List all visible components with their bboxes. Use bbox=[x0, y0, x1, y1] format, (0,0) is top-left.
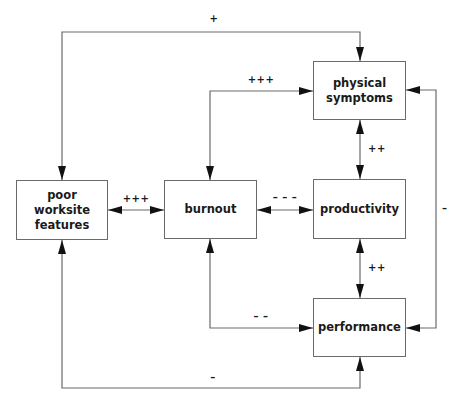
box-label: productivity bbox=[320, 202, 399, 217]
box-poor-worksite-features: poor worksite features bbox=[16, 180, 108, 240]
edge-label-poor-performance: – bbox=[210, 372, 216, 383]
box-physical-symptoms: physical symptoms bbox=[313, 61, 406, 120]
edge-label-physical-performance: – bbox=[442, 203, 448, 214]
edge-burnout-to-physical bbox=[210, 91, 313, 180]
edge-label-poor-burnout: +++ bbox=[123, 193, 150, 204]
box-label: poor worksite features bbox=[34, 188, 90, 233]
causal-diagram: poor worksite features burnout physical … bbox=[0, 0, 462, 400]
edge-label-productivity-performance: ++ bbox=[368, 262, 386, 273]
box-label: burnout bbox=[185, 202, 237, 217]
edge-label-burnout-performance: – – bbox=[254, 311, 269, 322]
box-label: physical symptoms bbox=[326, 76, 393, 106]
box-label: performance bbox=[318, 320, 401, 335]
edge-label-burnout-physical: +++ bbox=[248, 74, 275, 85]
edge-physical-to-performance bbox=[406, 90, 436, 328]
edge-label-burnout-productivity: – – – bbox=[273, 192, 297, 203]
box-burnout: burnout bbox=[164, 180, 257, 239]
edge-label-physical-productivity: ++ bbox=[368, 143, 386, 154]
box-performance: performance bbox=[313, 298, 406, 357]
edge-label-poor-physical: + bbox=[210, 13, 219, 24]
box-productivity: productivity bbox=[313, 179, 406, 239]
